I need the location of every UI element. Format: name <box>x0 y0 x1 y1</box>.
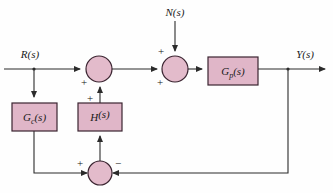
sign-summer3-output: − <box>115 157 121 169</box>
block-controller[interactable]: Gc(s) <box>12 103 57 131</box>
plant-label-base: G <box>221 65 229 77</box>
controller-label-arg: (s) <box>34 111 46 124</box>
wire-r-branch-to-controller <box>32 67 35 97</box>
summing-junction-3[interactable] <box>88 161 112 185</box>
signal-label-input-r: R(s) <box>20 48 40 61</box>
sign-summer1-h: + <box>87 92 93 104</box>
sign-summer2-n: + <box>158 45 164 57</box>
summing-junction-2[interactable] <box>162 56 188 82</box>
signal-label-input-n: N(s) <box>165 6 185 19</box>
controller-label-base: G <box>23 111 31 123</box>
plant-label-arg: (s) <box>233 65 245 78</box>
signal-label-output-y: Y(s) <box>296 48 314 61</box>
block-feedback-h[interactable]: H(s) <box>78 103 122 131</box>
block-diagram: Gc(s) H(s) Gp(s) + + + + <box>0 0 333 193</box>
feedback-h-label-arg: (s) <box>98 108 110 121</box>
summing-junction-1[interactable] <box>86 56 112 82</box>
diagram-canvas: Gc(s) H(s) Gp(s) + + + + <box>0 0 333 193</box>
block-plant[interactable]: Gp(s) <box>208 57 258 85</box>
sign-summer1-r: + <box>81 76 87 88</box>
wire-output-feedback <box>113 67 290 173</box>
sign-summer3-controller: + <box>77 157 83 169</box>
sign-summer2-forward: + <box>157 76 163 88</box>
